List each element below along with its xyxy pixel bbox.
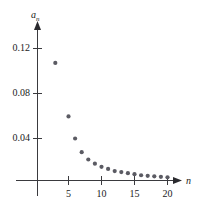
y-tick-label-0.04: 0.04	[2, 133, 30, 143]
data-point	[80, 150, 84, 154]
data-point-series	[53, 61, 169, 180]
x-axis-arrow-icon	[173, 177, 182, 184]
scatter-plot-figure: 0.12 0.08 0.04 5 10 15 20 an n	[0, 0, 199, 207]
data-point	[86, 157, 90, 161]
x-tick-label-15: 15	[124, 189, 145, 199]
data-point	[99, 165, 103, 169]
data-point	[119, 170, 123, 174]
data-point	[165, 175, 169, 179]
data-point	[152, 174, 156, 178]
data-point	[132, 172, 136, 176]
x-tick-label-10: 10	[91, 189, 112, 199]
y-axis-label-subscript: n	[36, 15, 40, 23]
x-axis-label: n	[186, 176, 191, 186]
data-point	[113, 169, 117, 173]
data-point	[139, 173, 143, 177]
data-point	[159, 175, 163, 179]
y-tick-label-0.08: 0.08	[2, 88, 30, 98]
data-point	[73, 136, 77, 140]
data-point	[53, 61, 57, 65]
y-tick-label-0.12: 0.12	[2, 43, 30, 53]
plot-canvas	[0, 0, 199, 207]
data-point	[93, 162, 97, 166]
data-point	[146, 174, 150, 178]
y-axis-label: an	[31, 10, 40, 23]
data-point	[106, 167, 110, 171]
x-tick-label-5: 5	[58, 189, 79, 199]
data-point	[126, 171, 130, 175]
x-tick-label-20: 20	[157, 189, 178, 199]
data-point	[66, 114, 70, 118]
